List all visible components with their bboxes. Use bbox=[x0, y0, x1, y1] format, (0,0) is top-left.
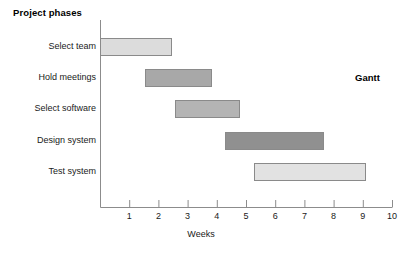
x-axis-tick-label: 1 bbox=[119, 211, 139, 221]
category-label-3: Design system bbox=[37, 135, 96, 145]
x-axis-tick-label: 8 bbox=[324, 211, 344, 221]
x-axis-tick-label: 7 bbox=[294, 211, 314, 221]
x-axis-title: Weeks bbox=[0, 229, 402, 239]
x-axis-tick-label: 10 bbox=[382, 211, 402, 221]
x-axis-tick-label: 3 bbox=[178, 211, 198, 221]
x-axis-tick-label: 6 bbox=[265, 211, 285, 221]
x-axis-tick-label: 9 bbox=[353, 211, 373, 221]
category-label-2: Select software bbox=[34, 103, 96, 113]
x-axis-tick-label: 4 bbox=[207, 211, 227, 221]
x-axis-tick-label: 2 bbox=[148, 211, 168, 221]
gantt-bar-4 bbox=[254, 163, 366, 181]
gantt-bar-3 bbox=[225, 132, 324, 150]
gantt-bar-2 bbox=[175, 100, 239, 118]
gantt-chart: Project phases Gantt Select teamHold mee… bbox=[0, 0, 402, 256]
category-label-1: Hold meetings bbox=[38, 72, 96, 82]
gantt-bar-0 bbox=[100, 38, 172, 56]
x-axis-tick-marks bbox=[130, 200, 393, 208]
category-label-4: Test system bbox=[48, 166, 96, 176]
category-label-0: Select team bbox=[48, 41, 96, 51]
gantt-bar-1 bbox=[145, 69, 212, 87]
x-axis-tick-label: 5 bbox=[236, 211, 256, 221]
